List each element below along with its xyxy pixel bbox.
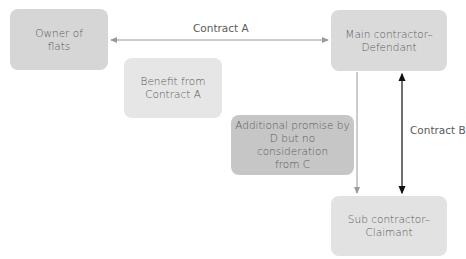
benefit-node: Benefit from Contract A <box>124 58 222 118</box>
owner-of-flats-node: Owner of flats <box>10 9 108 70</box>
owner-of-flats-label: Owner of flats <box>35 27 83 53</box>
benefit-label: Benefit from Contract A <box>141 75 206 101</box>
main-contractor-node: Main contractor– Defendant <box>331 10 447 71</box>
sub-contractor-label: Sub contractor– Claimant <box>348 213 430 239</box>
contract-a-label: Contract A <box>193 22 249 34</box>
additional-promise-node: Additional promise by D but no considera… <box>231 115 354 175</box>
main-contractor-label: Main contractor– Defendant <box>345 28 432 54</box>
additional-promise-label: Additional promise by D but no considera… <box>235 119 350 171</box>
sub-contractor-node: Sub contractor– Claimant <box>331 196 447 256</box>
contract-b-label: Contract B <box>410 124 466 136</box>
